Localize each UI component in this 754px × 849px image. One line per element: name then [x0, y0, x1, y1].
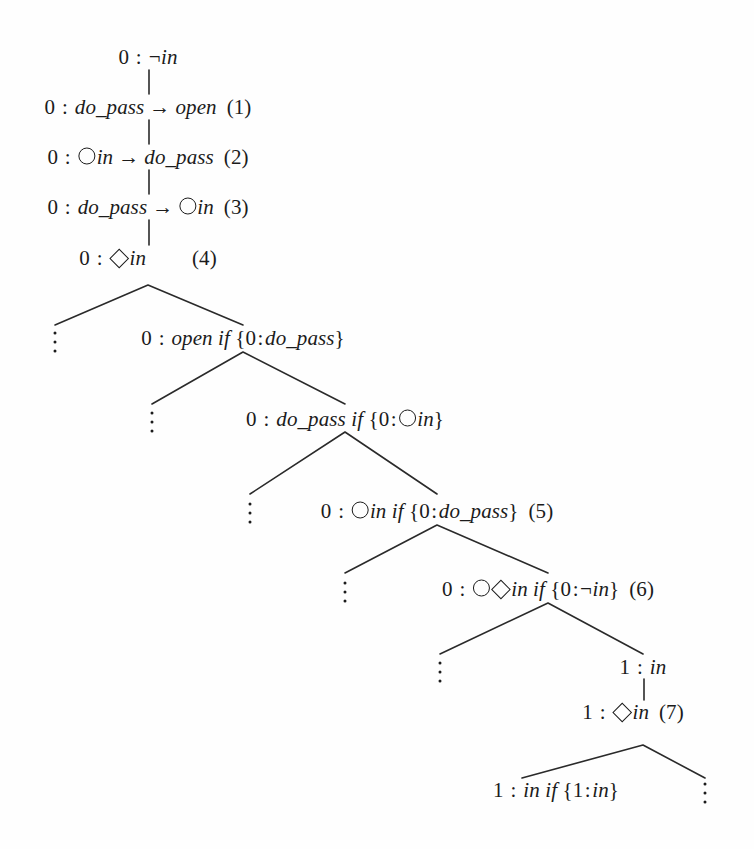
tree-edge-branch — [345, 525, 548, 573]
proposition-name: open — [175, 95, 216, 119]
world-separator: : — [430, 499, 439, 523]
ellipsis-dot — [54, 341, 57, 344]
proposition-name: if — [392, 499, 404, 523]
world-index: 0 — [246, 407, 257, 431]
set-brace: } — [508, 499, 518, 523]
proposition-name: if — [533, 577, 545, 601]
world-separator: : — [257, 407, 277, 431]
tableau-node: 0 : in(4) — [79, 248, 217, 269]
ellipsis-dot — [439, 680, 442, 683]
proposition-name: in — [523, 778, 540, 802]
next-operator-icon — [399, 410, 416, 427]
set-brace: { — [550, 577, 560, 601]
world-index: 1 — [582, 700, 593, 724]
world-index: 0 — [141, 326, 152, 350]
proposition-name: do_pass — [75, 95, 145, 119]
tree-edge-branch — [250, 432, 437, 494]
set-brace: { — [409, 499, 419, 523]
proposition-name: in — [650, 655, 667, 679]
ellipsis-dot — [704, 801, 707, 804]
tableau-figure: 0 : ¬in0 : do_pass→open(1)0 : in→do_pass… — [0, 0, 754, 849]
node-number-label: (6) — [619, 577, 654, 601]
negation-icon: ¬ — [580, 577, 592, 601]
world-separator: : — [58, 195, 78, 219]
next-operator-icon — [473, 580, 490, 597]
world-separator: : — [389, 407, 398, 431]
ellipsis-dot — [249, 521, 252, 524]
vertical-ellipsis — [249, 503, 252, 524]
ellipsis-dot — [54, 350, 57, 353]
world-separator: : — [256, 326, 265, 350]
world-index: 0 — [245, 326, 256, 350]
tableau-node: 0 : do_pass→in(3) — [47, 197, 248, 218]
ellipsis-dot — [704, 783, 707, 786]
vertical-ellipsis — [151, 412, 154, 433]
world-index: 1 — [620, 655, 631, 679]
proposition-name: in — [632, 700, 649, 724]
node-number-label: (2) — [214, 145, 249, 169]
node-number-label: (1) — [217, 95, 252, 119]
implication-icon: → — [147, 195, 178, 219]
set-brace: { — [235, 326, 245, 350]
ellipsis-dot — [344, 591, 347, 594]
proposition-name: in — [97, 145, 114, 169]
proposition-name: if — [545, 778, 557, 802]
eventually-operator-icon — [110, 249, 130, 269]
world-separator: : — [593, 700, 613, 724]
implication-icon: → — [144, 95, 175, 119]
node-number-label: (4) — [146, 246, 217, 270]
tree-edge-branch — [152, 352, 345, 404]
world-index: 0 — [442, 577, 453, 601]
node-number-label: (7) — [649, 700, 684, 724]
world-index: 0 — [47, 195, 58, 219]
proposition-name: in — [161, 45, 178, 69]
eventually-operator-icon — [613, 703, 633, 723]
node-number-label: (3) — [214, 195, 249, 219]
set-brace: { — [368, 407, 378, 431]
ellipsis-dot — [439, 662, 442, 665]
proposition-name: in — [592, 778, 609, 802]
world-separator: : — [129, 45, 149, 69]
tableau-node: 0 : in if {0:do_pass}(5) — [321, 501, 554, 522]
world-index: 0 — [118, 45, 129, 69]
world-separator: : — [152, 326, 172, 350]
world-separator: : — [453, 577, 473, 601]
ellipsis-dot — [249, 503, 252, 506]
tree-edge-branch — [440, 603, 643, 654]
vertical-ellipsis — [54, 332, 57, 353]
world-index: 0 — [79, 246, 90, 270]
set-brace: } — [609, 577, 619, 601]
node-number-label: (5) — [519, 499, 554, 523]
ellipsis-dot — [704, 792, 707, 795]
set-brace: } — [434, 407, 444, 431]
proposition-name: if — [351, 407, 363, 431]
tableau-node: 0 : open if {0:do_pass} — [141, 328, 345, 349]
world-separator: : — [630, 655, 650, 679]
tableau-node: 0 : ¬in — [118, 47, 177, 68]
set-brace: { — [562, 778, 572, 802]
vertical-ellipsis — [704, 783, 707, 804]
world-index: 0 — [419, 499, 430, 523]
next-operator-icon — [79, 148, 96, 165]
proposition-name: in — [370, 499, 387, 523]
world-separator: : — [55, 95, 75, 119]
proposition-name: do_pass — [276, 407, 346, 431]
set-brace: } — [609, 778, 619, 802]
tableau-node: 1 : in(7) — [582, 702, 684, 723]
ellipsis-dot — [439, 671, 442, 674]
next-operator-icon — [179, 198, 196, 215]
proposition-name: in — [511, 577, 528, 601]
tableau-node: 0 : in if {0:¬in}(6) — [442, 579, 654, 600]
proposition-name: in — [129, 246, 146, 270]
proposition-name: open — [171, 326, 212, 350]
world-separator: : — [571, 577, 580, 601]
vertical-ellipsis — [439, 662, 442, 683]
tree-edge-branch — [522, 745, 705, 778]
world-index: 0 — [47, 145, 58, 169]
tableau-node: 0 : do_pass if {0:in} — [246, 409, 444, 430]
proposition-name: do_pass — [439, 499, 509, 523]
proposition-name: in — [417, 407, 434, 431]
ellipsis-dot — [249, 512, 252, 515]
implication-icon: → — [113, 145, 144, 169]
ellipsis-dot — [151, 412, 154, 415]
